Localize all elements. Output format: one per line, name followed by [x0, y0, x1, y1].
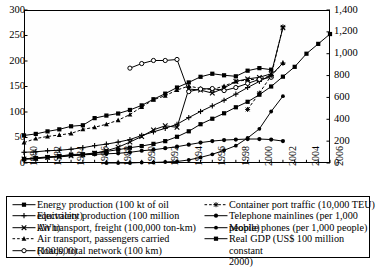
- x-tick-label: 1980: [28, 146, 39, 166]
- legend-column-right: Container port traffic (10,000 TEU)Telep…: [203, 199, 375, 255]
- legend-marker-icon: [11, 233, 37, 244]
- legend-right-item[interactable]: Real GDP (US$ 100 million constant2000): [203, 233, 375, 255]
- x-tick-label: 1984: [75, 146, 86, 166]
- legend-right-item[interactable]: Telephone mainlines (per 1,000 people): [203, 210, 375, 221]
- legend-right-item[interactable]: Container port traffic (10,000 TEU): [203, 199, 375, 210]
- x-tick-label: 1996: [216, 146, 227, 166]
- y-tick-left: 100: [9, 107, 25, 118]
- plot-area: [24, 10, 330, 163]
- x-tick-label: 1986: [99, 146, 110, 166]
- y-tick-right: 600: [334, 92, 350, 103]
- y-tick-right: 1,400: [334, 5, 358, 16]
- y-tick-right: 400: [334, 114, 350, 125]
- y-tick-right: 200: [334, 136, 350, 147]
- y-tick-right: 1,200: [334, 26, 358, 37]
- legend-label-line2: 2000): [229, 256, 375, 267]
- legend-label: Mobile phones (per 1,000 people): [229, 222, 367, 233]
- x-tick-label: 1992: [169, 146, 180, 166]
- legend-left-item[interactable]: Energy production (100 kt of oil equival…: [11, 199, 201, 210]
- legend-label: Container port traffic (10,000 TEU): [229, 199, 375, 210]
- legend-marker-icon: [203, 222, 229, 233]
- legend-marker-icon: [11, 199, 37, 210]
- y-tick-right: 800: [334, 70, 350, 81]
- legend-marker-icon: [11, 210, 37, 221]
- legend-marker-icon: [11, 245, 37, 256]
- legend: Energy production (100 kt of oil equival…: [6, 196, 370, 258]
- x-tick-label: 2000: [263, 146, 274, 166]
- legend-marker-icon: [203, 233, 229, 244]
- legend-marker-icon: [203, 199, 229, 210]
- legend-left-item[interactable]: Air transport, passengers carried (100,0…: [11, 233, 201, 244]
- legend-marker-icon: [203, 210, 229, 221]
- x-tick-label: 1990: [146, 146, 157, 166]
- y-tick-right: 1,000: [334, 48, 358, 59]
- y-tick-left: 50: [15, 132, 26, 143]
- x-tick-label: 1998: [240, 146, 251, 166]
- x-tick-label: 2004: [310, 146, 321, 166]
- x-tick-label: 1988: [122, 146, 133, 166]
- y-tick-left: 150: [9, 81, 25, 92]
- legend-marker-icon: [11, 222, 37, 233]
- x-tick-label: 2006: [334, 146, 345, 166]
- legend-label: Roads, total network (100 km): [37, 245, 162, 256]
- legend-left-item[interactable]: Air transport, freight (100,000 ton-km): [11, 222, 201, 233]
- legend-column-left: Energy production (100 kt of oil equival…: [11, 199, 201, 256]
- x-tick-label: 1994: [193, 146, 204, 166]
- legend-right-item[interactable]: Mobile phones (per 1,000 people): [203, 222, 375, 233]
- y-tick-left: 200: [9, 56, 25, 67]
- y-tick-left: 0: [20, 158, 25, 169]
- legend-left-item[interactable]: Electricity production (100 million kWh): [11, 210, 201, 221]
- legend-label: Air transport, freight (100,000 ton-km): [37, 222, 196, 233]
- x-tick-label: 1982: [52, 146, 63, 166]
- y-tick-left: 250: [9, 30, 25, 41]
- legend-label: Real GDP (US$ 100 million constant2000): [229, 233, 375, 267]
- x-tick-label: 2002: [287, 146, 298, 166]
- y-tick-left: 300: [9, 5, 25, 16]
